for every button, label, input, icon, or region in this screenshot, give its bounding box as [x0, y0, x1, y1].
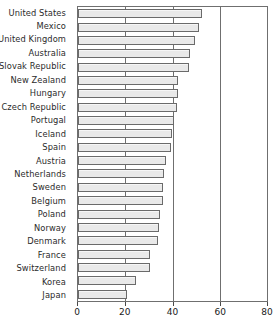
category-label: Denmark — [0, 235, 70, 248]
bar-row — [78, 47, 267, 60]
bar — [78, 129, 172, 138]
category-label: Switzerland — [0, 262, 70, 275]
category-label: Mexico — [0, 19, 70, 32]
category-label: Spain — [0, 141, 70, 154]
bar — [78, 49, 190, 58]
bar-row — [78, 7, 267, 20]
category-label: Australia — [0, 46, 70, 59]
bars-layer — [78, 7, 267, 301]
bar-chart: United StatesMexicoUnited KingdomAustral… — [0, 0, 275, 330]
axis-tick-label: 80 — [261, 308, 272, 317]
bar-row — [78, 60, 267, 73]
bar-row — [78, 288, 267, 301]
axis-tick-label: 40 — [167, 308, 178, 317]
bar-row — [78, 261, 267, 274]
bar — [78, 183, 163, 192]
bar-row — [78, 234, 267, 247]
bar — [78, 169, 164, 178]
bar — [78, 143, 171, 152]
bar-row — [78, 34, 267, 47]
axis-tick — [267, 302, 268, 306]
category-label: Korea — [0, 275, 70, 288]
bar-row — [78, 207, 267, 220]
value-axis: 020406080 — [77, 302, 268, 328]
bar-row — [78, 141, 267, 154]
bar-row — [78, 154, 267, 167]
bar-row — [78, 114, 267, 127]
category-label: Portugal — [0, 114, 70, 127]
bar — [78, 276, 136, 285]
category-label: United Kingdom — [0, 33, 70, 46]
category-label: Netherlands — [0, 167, 70, 180]
bar — [78, 250, 150, 259]
bar — [78, 9, 202, 18]
bar-row — [78, 167, 267, 180]
bar — [78, 89, 178, 98]
bar-row — [78, 74, 267, 87]
axis-tick-label: 0 — [74, 308, 80, 317]
bar — [78, 156, 166, 165]
bar-row — [78, 274, 267, 287]
bar — [78, 196, 163, 205]
category-label: New Zealand — [0, 73, 70, 86]
bar-row — [78, 101, 267, 114]
axis-tick-label: 20 — [119, 308, 130, 317]
bar-row — [78, 181, 267, 194]
bar-row — [78, 20, 267, 33]
axis-tick — [77, 302, 78, 306]
category-label: Iceland — [0, 127, 70, 140]
bar — [78, 103, 177, 112]
bar — [78, 36, 195, 45]
category-label: Norway — [0, 221, 70, 234]
category-label: Hungary — [0, 87, 70, 100]
category-label: Czech Republic — [0, 100, 70, 113]
bar-row — [78, 247, 267, 260]
bar — [78, 290, 127, 299]
category-label: United States — [0, 6, 70, 19]
axis-tick-label: 60 — [215, 308, 226, 317]
bar — [78, 23, 199, 32]
axis-tick — [220, 302, 221, 306]
category-label: Sweden — [0, 181, 70, 194]
category-label: France — [0, 248, 70, 261]
bar — [78, 76, 178, 85]
category-label: Slovak Republic — [0, 60, 70, 73]
bar — [78, 63, 189, 72]
category-label: Poland — [0, 208, 70, 221]
bar-row — [78, 127, 267, 140]
bar-row — [78, 221, 267, 234]
plot-area — [77, 6, 268, 302]
axis-tick — [173, 302, 174, 306]
bar — [78, 116, 174, 125]
bar — [78, 210, 160, 219]
category-label: Japan — [0, 289, 70, 302]
category-label: Austria — [0, 154, 70, 167]
category-axis: United StatesMexicoUnited KingdomAustral… — [0, 6, 70, 302]
bar-row — [78, 87, 267, 100]
bar-row — [78, 194, 267, 207]
bar — [78, 236, 158, 245]
bar — [78, 223, 159, 232]
axis-tick — [125, 302, 126, 306]
category-label: Belgium — [0, 194, 70, 207]
bar — [78, 263, 150, 272]
